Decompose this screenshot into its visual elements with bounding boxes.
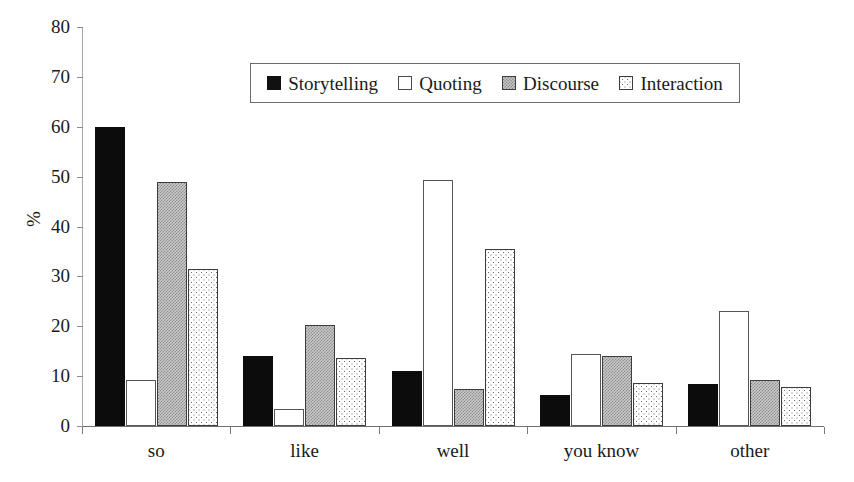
legend-label-quoting: Quoting [419,74,481,93]
x-group-tick [379,427,380,434]
bar-discourse-so[interactable] [157,182,187,426]
bar-interaction-so[interactable] [188,269,218,426]
legend-entry-interaction[interactable]: Interaction [619,74,722,93]
bar-discourse-you-know[interactable] [602,356,632,426]
bar-quoting-like[interactable] [274,409,304,426]
x-axis-label-so: so [82,440,230,462]
x-group-tick [527,427,528,434]
legend-swatch-interaction-icon [619,76,633,90]
x-group-tick [824,427,825,434]
grouped-bar-chart: % 01020304050607080 solikewellyou knowot… [0,0,854,482]
y-tick-label: 60 [26,117,70,136]
bar-quoting-so[interactable] [126,380,156,426]
bar-interaction-you-know[interactable] [633,383,663,426]
legend-swatch-storytelling-icon [267,76,281,90]
x-axis-label-you-know: you know [527,440,675,462]
y-tick-label: 40 [26,217,70,236]
y-tick-label: 70 [26,67,70,86]
x-group-tick [676,427,677,434]
legend-entry-storytelling[interactable]: Storytelling [267,74,378,93]
legend-label-discourse: Discourse [523,74,599,93]
x-group-tick [230,427,231,434]
x-axis-label-well: well [379,440,527,462]
y-tick-label: 0 [26,416,70,435]
x-axis-label-other: other [676,440,824,462]
y-tick-label: 10 [26,366,70,385]
legend-label-storytelling: Storytelling [288,74,378,93]
chart-legend: Storytelling Quoting Discourse Interacti… [250,63,740,103]
bar-quoting-well[interactable] [423,180,453,426]
legend-entry-quoting[interactable]: Quoting [398,74,481,93]
bar-interaction-other[interactable] [781,387,811,426]
bar-quoting-other[interactable] [719,311,749,426]
bar-storytelling-so[interactable] [95,127,125,426]
bar-storytelling-you-know[interactable] [540,395,570,426]
x-group-tick [82,427,83,434]
y-tick-label: 50 [26,167,70,186]
y-tick-label: 30 [26,266,70,285]
x-axis-label-like: like [230,440,378,462]
bar-interaction-well[interactable] [485,249,515,426]
bar-storytelling-well[interactable] [392,371,422,426]
bar-storytelling-other[interactable] [688,384,718,426]
bar-storytelling-like[interactable] [243,356,273,426]
legend-label-interaction: Interaction [640,74,722,93]
y-tick-label: 80 [26,17,70,36]
bar-discourse-well[interactable] [454,389,484,426]
bar-interaction-like[interactable] [336,358,366,426]
bar-quoting-you-know[interactable] [571,354,601,426]
legend-swatch-quoting-icon [398,76,412,90]
bar-discourse-like[interactable] [305,325,335,426]
legend-entry-discourse[interactable]: Discourse [502,74,599,93]
y-tick-label: 20 [26,316,70,335]
bar-discourse-other[interactable] [750,380,780,426]
x-axis-line [82,426,824,427]
legend-swatch-discourse-icon [502,76,516,90]
